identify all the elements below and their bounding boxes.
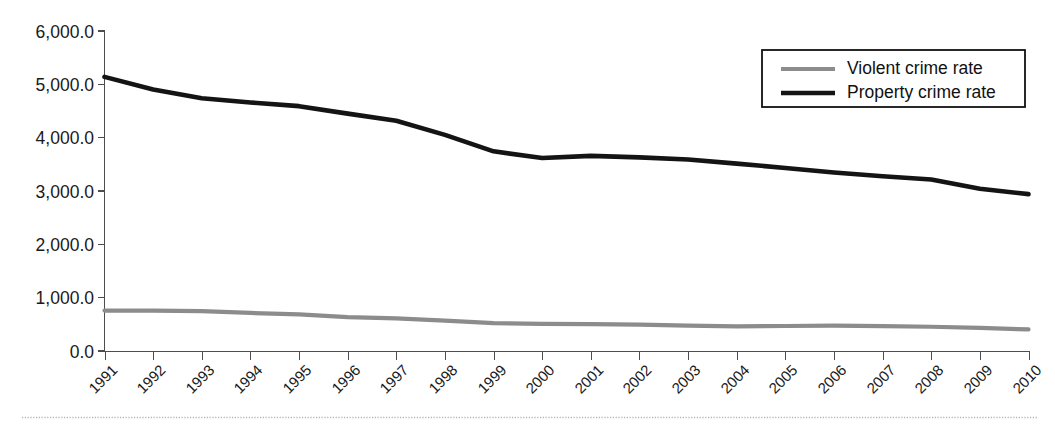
x-tick-label: 1991 [85,361,121,397]
y-tick-label: 4,000.0 [36,128,95,148]
data-series-group [105,77,1029,330]
x-tick-label: 1996 [328,361,364,397]
chart-legend: Violent crime rateProperty crime rate [762,50,1025,107]
x-tick-label: 1993 [182,361,218,397]
x-tick-label: 2006 [814,361,850,397]
x-tick-label: 1998 [425,361,461,397]
x-tick-label: 1994 [230,361,266,397]
x-axis-tick-marks [106,351,1030,360]
y-tick-label: 2,000.0 [36,235,95,255]
y-tick-label: 0.0 [70,342,95,362]
x-tick-label: 2010 [1009,361,1045,397]
y-tick-label: 5,000.0 [36,75,95,95]
x-tick-label: 1999 [474,361,510,397]
x-tick-label: 2002 [619,361,655,397]
x-tick-label: 2008 [911,361,947,397]
x-tick-label: 2001 [571,361,607,397]
x-tick-label: 1992 [133,361,169,397]
y-axis-tick-labels: 0.01,000.02,000.03,000.04,000.05,000.06,… [36,22,95,362]
x-tick-label: 2007 [863,361,899,397]
x-tick-label: 2009 [960,361,996,397]
x-tick-label: 1997 [376,361,412,397]
x-tick-label: 2004 [717,361,753,397]
x-tick-label: 2003 [668,361,704,397]
crime-rate-line-chart: 0.01,000.02,000.03,000.04,000.05,000.06,… [0,0,1055,429]
y-tick-label: 6,000.0 [36,22,95,42]
series-line-violent-crime-rate [105,311,1029,330]
legend-label-0: Violent crime rate [847,58,983,78]
y-tick-label: 1,000.0 [36,288,95,308]
x-axis-tick-labels: 1991199219931994199519961997199819992000… [85,361,1045,397]
legend-label-1: Property crime rate [847,82,996,102]
y-tick-label: 3,000.0 [36,182,95,202]
x-tick-label: 2000 [522,361,558,397]
chart-canvas: 0.01,000.02,000.03,000.04,000.05,000.06,… [0,0,1055,429]
y-axis-tick-marks [98,31,105,351]
x-tick-label: 2005 [765,361,801,397]
x-tick-label: 1995 [279,361,315,397]
